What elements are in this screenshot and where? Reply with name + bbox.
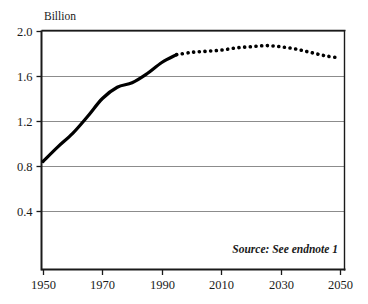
line-chart: 2.01.61.20.80.4 195019701990201020302050… [0, 0, 368, 304]
y-tick-label: 2.0 [17, 25, 33, 39]
y-axis-unit-label: Billion [44, 10, 76, 22]
x-tick-label: 2030 [269, 278, 294, 292]
y-tick-label: 0.4 [17, 205, 33, 219]
y-tick-label: 1.6 [17, 70, 33, 84]
source-note: Source: See endnote 1 [232, 243, 338, 255]
x-tick-label: 2050 [328, 278, 353, 292]
x-tick-label: 1990 [150, 278, 175, 292]
y-tick-label: 0.8 [17, 160, 33, 174]
chart-background [0, 0, 368, 304]
x-tick-label: 1970 [90, 278, 115, 292]
x-tick-label: 2010 [209, 278, 234, 292]
y-tick-label: 1.2 [17, 115, 33, 129]
chart-container: 2.01.61.20.80.4 195019701990201020302050… [0, 0, 368, 304]
x-tick-label: 1950 [31, 278, 56, 292]
